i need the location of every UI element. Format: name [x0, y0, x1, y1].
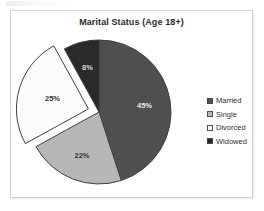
pie-slice-label: 25%: [45, 94, 60, 103]
pie-slice-label: 22%: [75, 150, 90, 159]
chart-title: Marital Status (Age 18+): [11, 17, 252, 27]
legend-swatch-icon: [207, 125, 213, 131]
chart-frame: Marital Status (Age 18+) 45%22%25%8% Mar…: [10, 10, 253, 198]
legend-item-label: Widowed: [216, 137, 247, 146]
pie-slice-label: 8%: [82, 63, 93, 72]
legend-item-divorced[interactable]: Divorced: [207, 121, 264, 134]
legend-item-label: Single: [216, 110, 237, 119]
legend-item-label: Divorced: [216, 123, 246, 132]
chart-legend: MarriedSingleDivorcedWidowed: [207, 94, 264, 148]
legend-swatch-icon: [207, 138, 213, 144]
legend-item-label: Married: [216, 96, 241, 105]
legend-item-single[interactable]: Single: [207, 108, 264, 121]
top-edge-artifact: [6, 1, 66, 6]
legend-swatch-icon: [207, 111, 213, 117]
pie-slice-label: 45%: [137, 100, 152, 109]
pie-chart-svg: [17, 31, 177, 193]
legend-item-married[interactable]: Married: [207, 94, 264, 107]
legend-item-widowed[interactable]: Widowed: [207, 135, 264, 148]
legend-swatch-icon: [207, 98, 213, 104]
pie-chart-plot-area: 45%22%25%8%: [17, 31, 177, 193]
